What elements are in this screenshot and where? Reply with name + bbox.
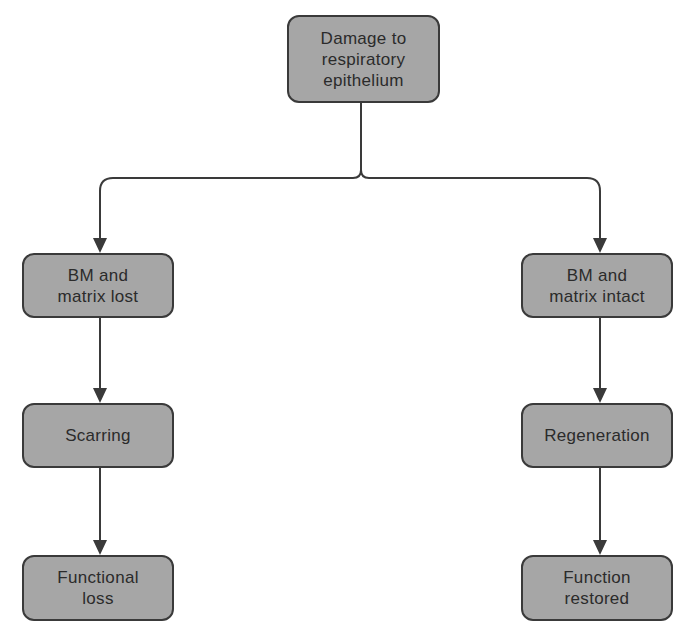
node-functional-loss: Functional loss (22, 555, 174, 621)
node-label: Damage to respiratory epithelium (321, 28, 407, 91)
node-label: Regeneration (544, 425, 650, 446)
arrow-head-right-2 (593, 388, 607, 403)
arrow-head-left-1 (93, 238, 107, 253)
node-label: Function restored (563, 567, 631, 609)
node-label: Scarring (65, 425, 131, 446)
node-regeneration: Regeneration (521, 403, 673, 468)
node-bm-and-matrix-intact: BM and matrix intact (521, 253, 673, 318)
arrow-head-left-2 (93, 388, 107, 403)
node-label: Functional loss (57, 567, 138, 609)
flowchart: Damage to respiratory epithelium BM and … (0, 0, 697, 634)
arrow-head-left-3 (93, 540, 107, 555)
node-function-restored: Function restored (521, 555, 673, 621)
node-damage-to-respiratory-epithelium: Damage to respiratory epithelium (287, 15, 440, 103)
node-label: BM and matrix intact (549, 265, 645, 307)
arrow-head-right-1 (593, 238, 607, 253)
node-label: BM and matrix lost (58, 265, 139, 307)
edge-root-split (100, 102, 600, 240)
arrow-head-right-3 (593, 540, 607, 555)
node-bm-and-matrix-lost: BM and matrix lost (22, 253, 174, 318)
node-scarring: Scarring (22, 403, 174, 468)
